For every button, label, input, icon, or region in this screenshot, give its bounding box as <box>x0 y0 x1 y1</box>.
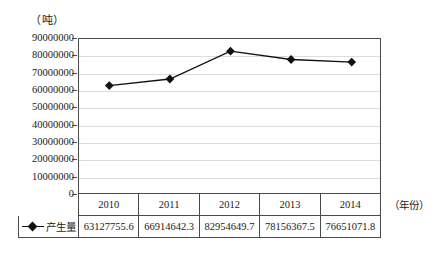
data-value-cell: 66914642.3 <box>139 216 199 237</box>
data-table-row: 产生量 63127755.666914642.382954649.7781563… <box>18 216 381 238</box>
data-value-cell: 76651071.8 <box>321 216 380 237</box>
data-value-cell: 78156367.5 <box>260 216 320 237</box>
value-cells: 63127755.666914642.382954649.778156367.5… <box>79 216 380 237</box>
y-axis-tick-label: 90000000 <box>2 33 74 43</box>
y-axis-tick-label: 30000000 <box>2 137 74 147</box>
y-axis-tick-label: 60000000 <box>2 85 74 95</box>
year-header-cell: 2011 <box>139 194 199 215</box>
y-axis-tick-label: 40000000 <box>2 120 74 130</box>
year-header-cell: 2013 <box>260 194 320 215</box>
y-axis-tick-mark <box>72 159 77 160</box>
series-line-produced-amount <box>79 39 381 194</box>
y-axis-tick-label: 20000000 <box>2 154 74 164</box>
y-axis-tick-mark <box>72 90 77 91</box>
y-axis-tick-mark <box>72 55 77 56</box>
data-point-marker <box>166 75 175 84</box>
data-value-cell: 63127755.6 <box>79 216 139 237</box>
year-header-cell: 2012 <box>200 194 260 215</box>
y-axis-tick-mark <box>72 194 77 195</box>
series-line <box>109 51 351 85</box>
y-axis-tick-mark <box>72 107 77 108</box>
y-axis-tick-mark <box>72 38 77 39</box>
legend-label: 产生量 <box>46 219 76 234</box>
y-axis-tick-mark <box>72 142 77 143</box>
legend-cell: 产生量 <box>19 216 79 237</box>
y-axis-tick-mark <box>72 125 77 126</box>
y-axis-tick-mark <box>72 73 77 74</box>
y-axis-tick-label: 70000000 <box>2 68 74 78</box>
data-point-marker <box>287 55 296 64</box>
line-diamond-marker-icon <box>22 222 44 231</box>
figure-caption <box>105 250 355 258</box>
data-point-marker <box>226 47 235 56</box>
data-point-marker <box>347 58 356 67</box>
year-header-cell: 2014 <box>321 194 380 215</box>
x-axis-unit-label: （年份） <box>389 197 429 212</box>
year-header-row: 20102011201220132014 <box>78 194 381 216</box>
year-header-cell: 2010 <box>79 194 139 215</box>
y-axis-tick-label: 50000000 <box>2 102 74 112</box>
y-axis-tick-label: 0 <box>2 189 74 199</box>
y-axis-tick-mark <box>72 177 77 178</box>
y-axis-tick-label: 10000000 <box>2 172 74 182</box>
chart-figure: （吨） 900000008000000070000000600000005000… <box>0 0 438 258</box>
data-value-cell: 82954649.7 <box>200 216 260 237</box>
data-point-marker <box>105 81 114 90</box>
plot-area <box>78 38 381 194</box>
y-axis-tick-label: 80000000 <box>2 50 74 60</box>
